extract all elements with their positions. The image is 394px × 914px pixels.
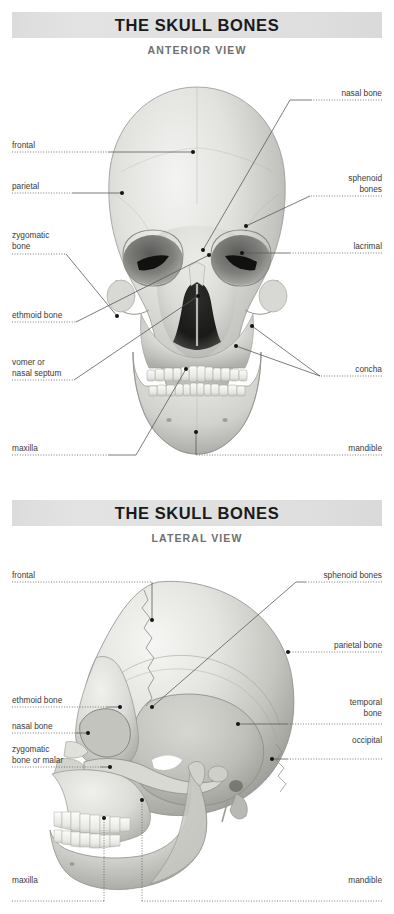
- lateral-label-mandible: mandible: [242, 875, 382, 886]
- anterior-label-lacrimal: lacrimal: [262, 241, 382, 252]
- anterior-label-concha: concha: [262, 364, 382, 375]
- lateral-title: THE SKULL BONES: [115, 504, 280, 523]
- lateral-title-bar: THE SKULL BONES: [12, 500, 382, 526]
- anterior-label-sphenoid-bones: sphenoid bones: [262, 173, 382, 194]
- anterior-skull-illustration: [97, 84, 297, 466]
- lateral-label-zygomatic-malar: zygomatic bone or malar: [12, 744, 63, 765]
- anterior-label-maxilla: maxilla: [12, 443, 38, 454]
- lateral-label-sphenoid-bones: sphenoid bones: [242, 570, 382, 581]
- anterior-title: THE SKULL BONES: [115, 16, 280, 35]
- anterior-figure-panel: THE SKULL BONES ANTERIOR VIEW: [0, 0, 394, 480]
- lateral-label-maxilla: maxilla: [12, 875, 38, 886]
- lateral-label-nasal-bone: nasal bone: [12, 721, 53, 732]
- anterior-label-vomer: vomer or nasal septum: [12, 357, 61, 378]
- lateral-label-parietal-bone: parietal bone: [242, 640, 382, 651]
- lateral-label-ethmoid-bone: ethmoid bone: [12, 695, 62, 706]
- anterior-subtitle: ANTERIOR VIEW: [0, 44, 394, 56]
- skull-bones-diagram-page: THE SKULL BONES ANTERIOR VIEW: [0, 0, 394, 914]
- anterior-label-frontal: frontal: [12, 140, 35, 151]
- lateral-label-occipital: occipital: [242, 735, 382, 746]
- anterior-label-ethmoid-bone: ethmoid bone: [12, 310, 62, 321]
- lateral-label-frontal: frontal: [12, 570, 35, 581]
- lateral-label-temporal-bone: temporal bone: [242, 697, 382, 718]
- anterior-title-bar: THE SKULL BONES: [12, 12, 382, 38]
- anterior-label-nasal-bone: nasal bone: [262, 88, 382, 99]
- anterior-label-parietal: parietal: [12, 181, 39, 192]
- lateral-figure-panel: THE SKULL BONES LATERAL VIEW: [0, 486, 394, 914]
- anterior-label-mandible: mandible: [262, 443, 382, 454]
- lateral-subtitle: LATERAL VIEW: [0, 532, 394, 544]
- anterior-label-zygomatic-bone: zygomatic bone: [12, 230, 49, 251]
